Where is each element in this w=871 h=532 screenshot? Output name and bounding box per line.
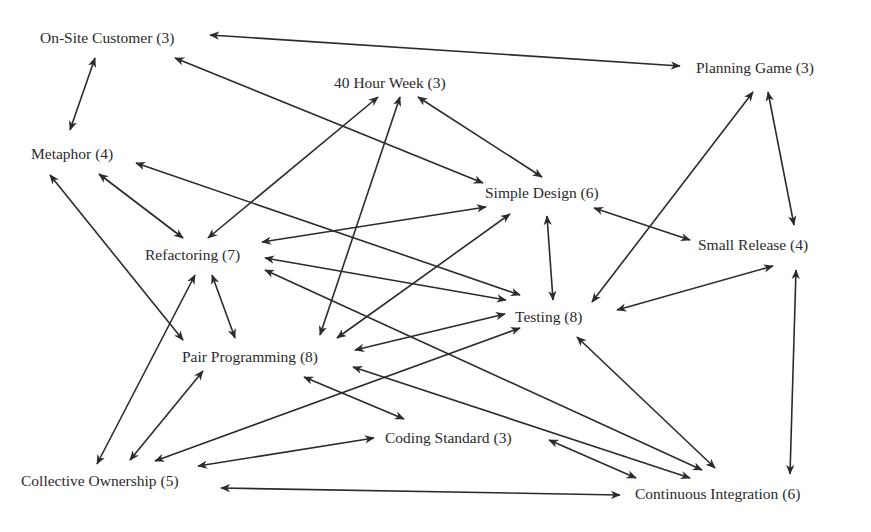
node-testing: Testing (8) [515, 308, 582, 326]
edge-metaphor-testing [136, 163, 520, 295]
node-pair: Pair Programming (8) [182, 348, 318, 366]
edge-simple-testing [547, 216, 553, 300]
node-planning: Planning Game (3) [696, 59, 814, 77]
node-coding: Coding Standard (3) [385, 429, 512, 447]
edge-planning-testing [592, 92, 753, 302]
node-small: Small Release (4) [698, 236, 808, 254]
node-ci: Continuous Integration (6) [635, 485, 800, 503]
node-week40: 40 Hour Week (3) [334, 74, 446, 92]
edge-onsite-planning [210, 35, 680, 66]
node-refactor: Refactoring (7) [145, 246, 240, 264]
edge-collective-ci [221, 488, 620, 495]
edge-pair-ci [353, 367, 690, 478]
edge-simple-refactor [262, 207, 486, 242]
node-metaphor: Metaphor (4) [31, 145, 113, 163]
node-collective: Collective Ownership (5) [21, 472, 179, 490]
edge-planning-small [768, 92, 794, 225]
edge-simple-small [594, 208, 690, 240]
edge-refactor-testing [265, 258, 506, 300]
node-onsite: On-Site Customer (3) [40, 29, 174, 47]
edge-small-testing [617, 266, 773, 310]
edge-refactor-pair [212, 275, 235, 338]
edge-pair-coding [304, 377, 404, 419]
edge-onsite-metaphor [70, 58, 95, 130]
edge-testing-pair [355, 314, 505, 350]
edge-layer [50, 35, 796, 495]
edge-small-ci [790, 270, 796, 474]
node-layer: On-Site Customer (3)40 Hour Week (3)Plan… [21, 29, 814, 503]
edge-metaphor-refactor [99, 174, 183, 238]
xp-practices-diagram: On-Site Customer (3)40 Hour Week (3)Plan… [0, 0, 871, 532]
edge-coding-collective [198, 438, 374, 466]
edge-refactor-collective [97, 275, 195, 464]
node-simple: Simple Design (6) [485, 184, 599, 202]
